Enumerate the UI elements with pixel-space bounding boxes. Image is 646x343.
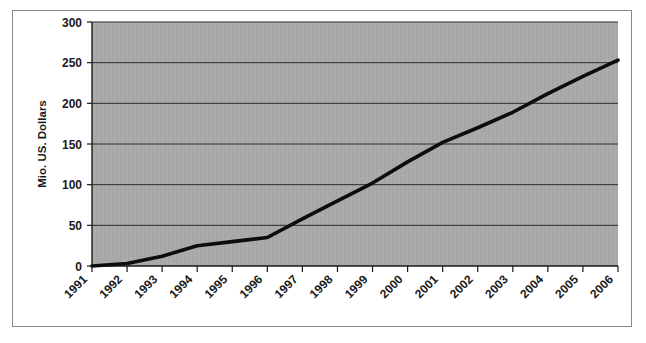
x-tick-label: 2004 (517, 272, 546, 301)
x-tick-label: 2001 (412, 272, 441, 301)
line-chart: 050100150200250300 199119921993199419951… (0, 0, 646, 343)
y-tick-label: 100 (62, 178, 82, 192)
x-tick-label: 2000 (377, 272, 406, 301)
y-tick-label: 250 (62, 56, 82, 70)
x-tick-label: 1991 (61, 272, 90, 301)
x-axis-labels: 1991199219931994199519961997199819992000… (61, 272, 616, 301)
y-tick-label: 50 (69, 219, 83, 233)
x-tick-label: 1995 (202, 272, 231, 301)
x-axis-ticks (92, 266, 618, 272)
x-tick-label: 2005 (552, 272, 581, 301)
x-tick-label: 2003 (482, 272, 511, 301)
x-tick-label: 1998 (307, 272, 336, 301)
y-axis-ticks: 050100150200250300 (62, 16, 92, 274)
x-tick-label: 1994 (167, 272, 196, 301)
y-tick-label: 0 (75, 260, 82, 274)
x-tick-label: 1997 (272, 272, 301, 301)
x-tick-label: 1999 (342, 272, 371, 301)
y-tick-label: 200 (62, 97, 82, 111)
x-tick-label: 1992 (96, 272, 125, 301)
x-tick-label: 1996 (237, 272, 266, 301)
x-tick-label: 2002 (447, 272, 476, 301)
chart-figure: 050100150200250300 199119921993199419951… (0, 0, 646, 343)
y-axis-title: Mio. US. Dollars (36, 100, 48, 188)
y-tick-label: 150 (62, 138, 82, 152)
x-tick-label: 2006 (587, 272, 616, 301)
y-tick-label: 300 (62, 16, 82, 30)
x-tick-label: 1993 (131, 272, 160, 301)
